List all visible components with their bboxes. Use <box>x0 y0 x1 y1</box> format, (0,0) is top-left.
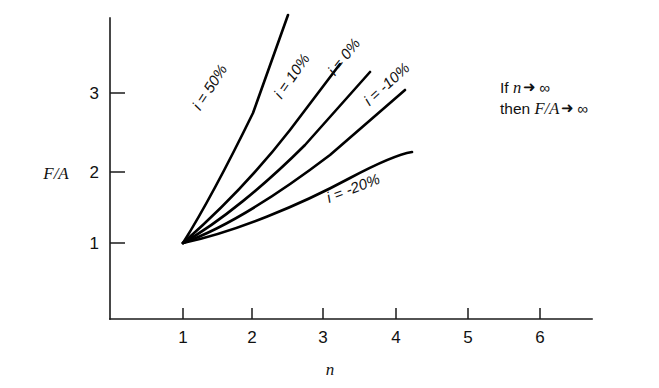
curve-label-i-0: i = 0% <box>324 35 363 79</box>
y-tick-label-1: 1 <box>90 234 99 253</box>
curve-label-i-10-group: i = 10% <box>270 50 313 101</box>
x-tick-label-1: 1 <box>178 328 187 347</box>
curve-label-i-50-group: i = 50% <box>189 61 231 113</box>
x-tick-label-4: 4 <box>391 328 400 347</box>
limit-note-line1-symbol: n <box>513 78 521 97</box>
limit-note-line-2: then F/A➜∞ <box>500 98 588 119</box>
chart-figure: 3 2 1 1 2 3 4 5 6 F/A n i = 50% i = 10% … <box>0 0 659 388</box>
y-tick-label-3: 3 <box>90 84 99 103</box>
chart-canvas: 3 2 1 1 2 3 4 5 6 F/A n i = 50% i = 10% … <box>0 0 659 388</box>
y-axis-label: F/A <box>42 164 69 183</box>
x-tick-label-3: 3 <box>318 328 327 347</box>
limit-note-line2-prefix: then <box>500 100 534 117</box>
y-tick-label-2: 2 <box>90 163 99 182</box>
limit-note-line-1: If n➜∞ <box>500 77 588 98</box>
arrow-right-icon: ➜ <box>521 76 538 97</box>
infinity-icon: ∞ <box>538 77 550 98</box>
x-tick-label-2: 2 <box>247 328 256 347</box>
x-tick-label-6: 6 <box>535 328 544 347</box>
arrow-right-icon-2: ➜ <box>559 97 576 118</box>
x-axis-label: n <box>326 360 335 379</box>
infinity-icon-2: ∞ <box>576 98 588 119</box>
curve-label-i-0-group: i = 0% <box>324 35 363 79</box>
limit-note-line2-symbol: F/A <box>534 99 559 118</box>
curve-label-i-minus-10: i = -10% <box>360 59 413 109</box>
curve-label-i-10: i = 10% <box>270 50 313 101</box>
curve-label-i-50: i = 50% <box>189 61 231 113</box>
curve-i-50 <box>183 15 288 243</box>
x-tick-label-5: 5 <box>463 328 472 347</box>
limit-note-line1-prefix: If <box>500 79 513 96</box>
curve-label-i-minus-10-group: i = -10% <box>360 59 413 109</box>
limit-note: If n➜∞ then F/A➜∞ <box>500 77 588 119</box>
